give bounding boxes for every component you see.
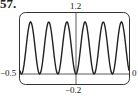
graph — [0, 0, 138, 97]
ymin-label: −0.2 — [65, 85, 81, 95]
xmin-label: −0.5 — [0, 68, 16, 78]
function-curve — [20, 22, 129, 74]
xmax-label: 0 — [132, 68, 137, 78]
ymax-label: 1.2 — [70, 1, 81, 11]
